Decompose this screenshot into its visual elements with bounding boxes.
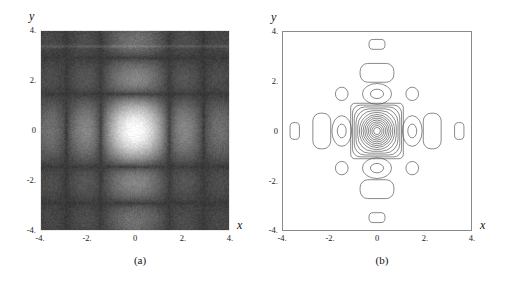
panel-b: y x 4. 2. 0 -2. -4. -4. -2. 0 2. 4. (b) — [256, 0, 513, 283]
panel-b-xtick-2: 2. — [414, 234, 436, 243]
two-panel-figure: y x 4. 2. 0 -2. -4. -4. -2. 0 2. 4. (a) … — [0, 0, 513, 283]
panel-a-ytick-4: 4. — [16, 26, 36, 35]
panel-b-xtick-neg2: -2. — [319, 234, 341, 243]
panel-a-ytick-neg2: -2. — [13, 176, 36, 185]
panel-a-ytick-2: 2. — [16, 76, 36, 85]
panel-b-x-axis-label: x — [480, 219, 485, 231]
panel-a-y-axis-label: y — [29, 10, 34, 22]
panel-a-caption: (a) — [110, 255, 170, 266]
density-plot-frame — [40, 30, 230, 231]
panel-a-ytick-0: 0 — [16, 126, 36, 135]
panel-a-xtick-neg4: -4. — [29, 234, 51, 243]
panel-a-x-axis-label: x — [237, 219, 242, 231]
panel-a: y x 4. 2. 0 -2. -4. -4. -2. 0 2. 4. (a) — [0, 0, 257, 283]
panel-b-ytick-neg2: -2. — [255, 177, 278, 186]
panel-b-y-axis-label: y — [271, 11, 276, 23]
contour-plot-svg — [283, 32, 471, 230]
panel-a-xtick-neg2: -2. — [76, 234, 98, 243]
density-plot-canvas — [41, 31, 229, 230]
panel-b-ytick-4: 4. — [258, 27, 278, 36]
panel-b-ytick-2: 2. — [258, 77, 278, 86]
panel-b-xtick-0: 0 — [366, 234, 388, 243]
panel-b-xtick-4: 4. — [461, 234, 483, 243]
panel-a-xtick-2: 2. — [172, 234, 194, 243]
contour-plot-frame — [282, 31, 472, 231]
panel-b-xtick-neg4: -4. — [271, 234, 293, 243]
panel-a-xtick-4: 4. — [219, 234, 241, 243]
panel-a-xtick-0: 0 — [124, 234, 146, 243]
panel-b-ytick-0: 0 — [258, 127, 278, 136]
panel-b-caption: (b) — [352, 255, 412, 266]
